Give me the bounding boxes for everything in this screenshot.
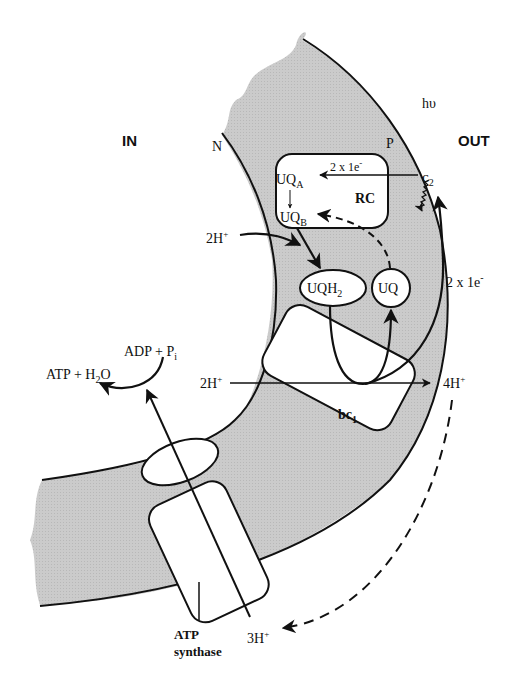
label-adp: ADP + Pi xyxy=(124,344,177,362)
label-in: IN xyxy=(122,132,137,149)
label-2h-rc: 2H+ xyxy=(206,229,228,246)
label-out: OUT xyxy=(458,132,490,149)
label-p: P xyxy=(386,136,394,151)
label-2h-bc1: 2H+ xyxy=(200,374,222,391)
label-uq: UQ xyxy=(378,281,398,296)
label-3h: 3H+ xyxy=(247,629,269,646)
label-rc: RC xyxy=(355,191,375,206)
label-atp-synthase-1: ATP xyxy=(174,627,199,642)
label-4h: 4H+ xyxy=(443,374,465,391)
label-rc-electrons: 2 x 1e- xyxy=(330,158,362,174)
label-n: N xyxy=(212,139,222,154)
label-return-electrons: 2 x 1e- xyxy=(446,272,484,290)
label-hv: hυ xyxy=(422,96,436,111)
label-atp-synthase-2: synthase xyxy=(174,644,222,659)
membrane-diagram: IN OUT N P hυ c2 2 x 1e- UQA RC UQB 2H+ … xyxy=(0,0,516,689)
